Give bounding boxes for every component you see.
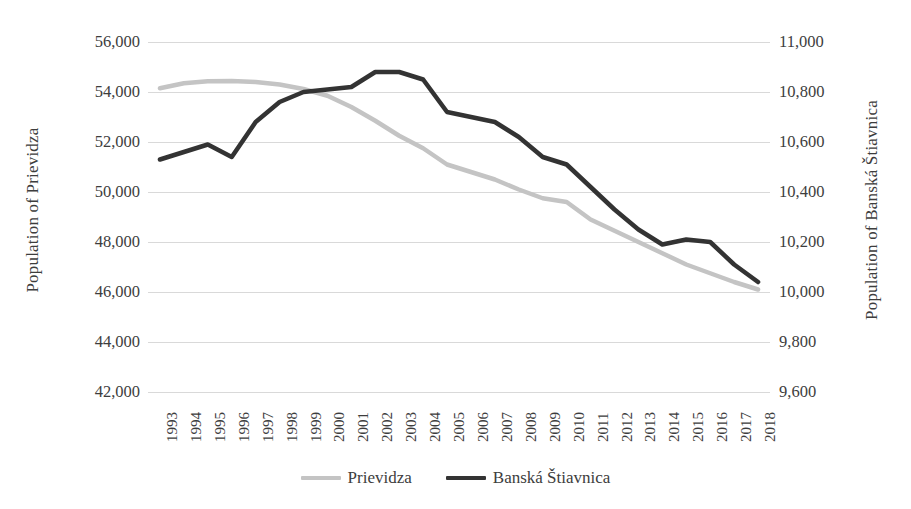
- y-axis-left-title: Population of Prievidza: [23, 100, 43, 320]
- x-axis-tick-label: 1995: [213, 412, 228, 442]
- y-axis-right-tick-label: 9,800: [779, 334, 816, 350]
- y-axis-right-tick-label: 10,200: [779, 234, 824, 250]
- legend-label: Prievidza: [348, 468, 412, 488]
- y-axis-right-tick-label: 9,600: [779, 384, 816, 400]
- y-axis-left-tick-label: 56,000: [95, 34, 140, 50]
- x-axis-tick-label: 2005: [452, 412, 467, 442]
- x-axis-tick-label: 2004: [428, 412, 443, 442]
- x-axis-tick-label: 2006: [476, 412, 491, 442]
- legend-swatch-icon: [301, 476, 341, 480]
- x-axis-tick-label: 1998: [285, 412, 300, 442]
- legend-item[interactable]: Banská Štiavnica: [446, 468, 611, 488]
- x-axis-tick-label: 2018: [763, 412, 778, 442]
- x-axis-tick-label: 2014: [667, 412, 682, 442]
- x-axis-tick-label: 2000: [332, 412, 347, 442]
- y-axis-left-tick-label: 48,000: [95, 234, 140, 250]
- x-axis-tick-label: 1999: [309, 412, 324, 442]
- y-axis-right-tick-label: 11,000: [779, 34, 824, 50]
- y-axis-left-tick-label: 50,000: [95, 184, 140, 200]
- legend-swatch-icon: [446, 476, 486, 480]
- y-axis-right-tick-label: 10,400: [779, 184, 824, 200]
- plot-area: [148, 42, 770, 392]
- y-axis-left-tick-label: 46,000: [95, 284, 140, 300]
- gridline: [148, 392, 770, 393]
- y-axis-left-tick-label: 42,000: [95, 384, 140, 400]
- y-axis-right-tick-label: 10,600: [779, 134, 824, 150]
- x-axis-tick-label: 2002: [380, 412, 395, 442]
- x-axis-tick-label: 2016: [715, 412, 730, 442]
- x-axis-tick-label: 2017: [739, 412, 754, 442]
- x-axis-tick-label: 2003: [404, 412, 419, 442]
- y-axis-left-tick-label: 52,000: [95, 134, 140, 150]
- x-axis-tick-label: 2007: [500, 412, 515, 442]
- y-axis-left-tick-label: 54,000: [95, 84, 140, 100]
- y-axis-left-tick-label: 44,000: [95, 334, 140, 350]
- chart-container: Population of Prievidza Population of Ba…: [0, 0, 911, 509]
- x-axis-tick-label: 1997: [261, 412, 276, 442]
- y-axis-right-tick-label: 10,800: [779, 84, 824, 100]
- data-lines: [148, 42, 770, 392]
- line-series-banska-stiavnica: [160, 72, 758, 282]
- x-axis-tick-label: 2015: [691, 412, 706, 442]
- legend-item[interactable]: Prievidza: [301, 468, 412, 488]
- x-axis-tick-label: 2013: [643, 412, 658, 442]
- chart-legend: PrievidzaBanská Štiavnica: [0, 468, 911, 488]
- legend-label: Banská Štiavnica: [493, 468, 611, 488]
- x-axis-tick-label: 2001: [356, 412, 371, 442]
- y-axis-right-title: Population of Banská Štiavnica: [862, 65, 882, 355]
- x-axis-tick-label: 2009: [548, 412, 563, 442]
- x-axis-tick-label: 1996: [237, 412, 252, 442]
- x-axis-tick-label: 1994: [189, 412, 204, 442]
- y-axis-right-tick-label: 10,000: [779, 284, 824, 300]
- x-axis-tick-label: 2011: [596, 413, 611, 442]
- x-axis-tick-label: 1993: [165, 412, 180, 442]
- x-axis-tick-label: 2010: [572, 412, 587, 442]
- x-axis-tick-label: 2008: [524, 412, 539, 442]
- x-axis-tick-label: 2012: [620, 412, 635, 442]
